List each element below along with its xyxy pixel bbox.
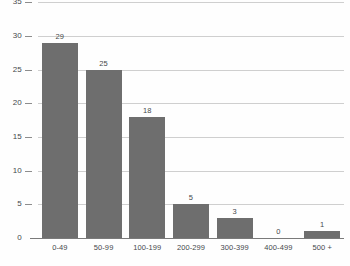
gridline-15 [38,137,344,138]
y-axis-tick-mark-20 [25,103,32,104]
gridline-10 [38,171,344,172]
x-axis-label-200-299: 200-299 [167,243,215,252]
bar-value-label-300-399: 3 [217,207,253,216]
bar-100-199[interactable] [129,117,165,238]
y-axis-tick-label-0: 0 [2,233,22,242]
y-axis-tick-mark-10 [25,171,32,172]
gridline-30 [38,36,344,37]
chart-screenshot: 05101520253035 2925185301 0-4950-99100-1… [0,0,350,266]
bar-value-label-50-99: 25 [86,59,122,68]
bar-value-label-200-299: 5 [173,193,209,202]
bar-chart-plot-area: 05101520253035 2925185301 0-4950-99100-1… [38,0,344,238]
bar-value-label-500: 1 [304,220,340,229]
y-axis-tick-label-10: 10 [2,166,22,175]
y-axis-tick-label-20: 20 [2,98,22,107]
y-axis-tick-label-35: 35 [2,0,22,6]
x-axis-label-0-49: 0-49 [36,243,84,252]
x-axis-label-100-199: 100-199 [123,243,171,252]
bar-200-299[interactable] [173,204,209,238]
bar-500[interactable] [304,231,340,238]
bar-value-label-400-499: 0 [260,227,296,236]
gridline-35 [38,2,344,3]
x-axis-label-50-99: 50-99 [80,243,128,252]
y-axis-tick-mark-30 [25,36,32,37]
y-axis-tick-label-25: 25 [2,65,22,74]
y-axis-tick-label-5: 5 [2,199,22,208]
y-axis-tick-mark-15 [25,137,32,138]
x-axis-label-300-399: 300-399 [211,243,259,252]
axis-baseline [30,238,344,239]
x-axis-label-400-499: 400-499 [254,243,302,252]
bar-value-label-0-49: 29 [42,32,78,41]
bar-0-49[interactable] [42,43,78,238]
gridline-25 [38,70,344,71]
bar-50-99[interactable] [86,70,122,238]
y-axis-tick-mark-25 [25,70,32,71]
x-axis-label-500: 500 + [298,243,346,252]
bar-value-label-100-199: 18 [129,106,165,115]
y-axis-tick-label-30: 30 [2,31,22,40]
y-axis-tick-mark-5 [25,204,32,205]
y-axis-tick-mark-35 [25,2,32,3]
y-axis-tick-label-15: 15 [2,132,22,141]
bar-300-399[interactable] [217,218,253,238]
gridline-20 [38,103,344,104]
